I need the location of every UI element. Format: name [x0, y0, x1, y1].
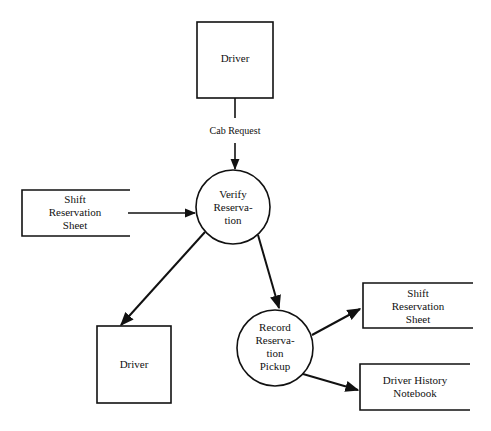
- shift-right-line-3: Sheet: [373, 313, 463, 326]
- driver-history-line-2: Notebook: [365, 387, 465, 400]
- driver-bottom-label: Driver: [97, 358, 171, 371]
- flow-verify-to-driver: [121, 232, 205, 325]
- shift-right-line-2: Reservation: [373, 300, 463, 313]
- driver-top-label: Driver: [197, 52, 273, 65]
- record-line-4: Pickup: [240, 360, 310, 373]
- shift-sheet-left-label: Shift Reservation Sheet: [30, 193, 120, 232]
- driver-history-label: Driver History Notebook: [365, 374, 465, 400]
- record-pickup-label: Record Reserva- tion Pickup: [240, 321, 310, 373]
- flow-record-to-shift-sheet: [312, 309, 360, 335]
- record-line-3: tion: [240, 347, 310, 360]
- verify-reservation-label: Verify Reserva- tion: [200, 188, 266, 227]
- shift-sheet-right-label: Shift Reservation Sheet: [373, 287, 463, 326]
- shift-right-line-1: Shift: [373, 287, 463, 300]
- verify-line-1: Verify: [200, 188, 266, 201]
- shift-left-line-2: Reservation: [30, 206, 120, 219]
- shift-left-line-1: Shift: [30, 193, 120, 206]
- flow-verify-to-record: [258, 235, 279, 308]
- flow-record-to-driver-history: [303, 374, 358, 390]
- cab-request-label: Cab Request: [195, 124, 275, 137]
- verify-line-2: Reserva-: [200, 201, 266, 214]
- verify-line-3: tion: [200, 214, 266, 227]
- driver-history-line-1: Driver History: [365, 374, 465, 387]
- record-line-2: Reserva-: [240, 334, 310, 347]
- shift-left-line-3: Sheet: [30, 219, 120, 232]
- record-line-1: Record: [240, 321, 310, 334]
